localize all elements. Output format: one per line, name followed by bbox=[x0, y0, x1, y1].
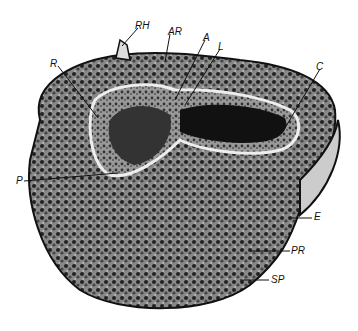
label-rh: RH bbox=[135, 21, 149, 31]
label-l: L bbox=[218, 42, 224, 52]
label-r: R bbox=[50, 59, 57, 69]
label-a: A bbox=[203, 33, 210, 43]
label-e: E bbox=[314, 212, 321, 222]
micrograph-figure: RH AR A L R C P E PR SP bbox=[0, 0, 358, 331]
tissue-section bbox=[0, 0, 358, 331]
label-c: C bbox=[316, 62, 323, 72]
label-sp: SP bbox=[271, 275, 284, 285]
label-p: P bbox=[16, 176, 23, 186]
label-pr: PR bbox=[291, 246, 305, 256]
label-ar: AR bbox=[168, 27, 182, 37]
